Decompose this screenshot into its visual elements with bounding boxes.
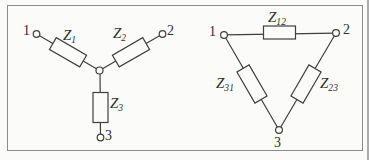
impedance-label-z23-sub: 23	[328, 83, 338, 93]
impedance-label-z3: Z3	[110, 96, 123, 114]
impedance-box-z12	[264, 26, 296, 39]
impedance-label-z12: Z12	[268, 10, 286, 28]
delta-terminal-node-2	[333, 30, 340, 37]
impedance-label-z31: Z31	[216, 76, 234, 94]
impedance-label-z1: Z1	[63, 28, 76, 46]
impedance-label-z31-sub: 31	[224, 83, 234, 93]
delta-terminal-node-1	[221, 32, 228, 39]
wye-terminal-node-2	[159, 31, 166, 38]
impedance-box-z31	[237, 65, 267, 103]
wye-network	[33, 31, 166, 141]
impedance-label-z23: Z23	[320, 76, 338, 94]
delta-terminal-label-1: 1	[209, 25, 216, 39]
impedance-box-z23	[291, 65, 321, 103]
impedance-label-z2-sub: 2	[121, 33, 126, 43]
wye-terminal-label-2: 2	[167, 24, 174, 38]
wye-terminal-label-1: 1	[23, 24, 30, 38]
figure-canvas: 1 2 3 Z1 Z2 Z3 1 2 3 Z12 Z23 Z31	[0, 0, 369, 160]
wye-center-node	[96, 67, 103, 74]
delta-terminal-label-3: 3	[274, 136, 281, 150]
impedance-label-z2: Z2	[113, 26, 126, 44]
impedance-box-z3	[93, 93, 108, 123]
impedance-label-z3-sub: 3	[118, 103, 123, 113]
impedance-label-z12-sub: 12	[276, 17, 286, 27]
wye-terminal-label-3: 3	[105, 129, 112, 143]
circuit-drawing	[0, 0, 369, 160]
wye-terminal-node-1	[33, 31, 40, 38]
impedance-label-z1-sub: 1	[71, 35, 76, 45]
delta-terminal-label-2: 2	[343, 23, 350, 37]
wye-terminal-node-3	[97, 134, 104, 141]
delta-terminal-node-3	[276, 127, 283, 134]
